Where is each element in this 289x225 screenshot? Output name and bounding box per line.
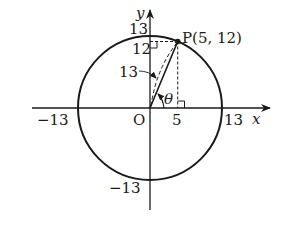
diagram-canvas: y x O 13 −13 13 −13 P(5, 12) 12 13 5 θ [0, 0, 289, 225]
x-coordinate-label: 5 [172, 111, 182, 129]
x-axis-label: x [252, 110, 261, 128]
point-p-label: P(5, 12) [182, 29, 242, 47]
radius-label-pointer [139, 71, 156, 78]
radius-length-label: 13 [119, 63, 138, 81]
tick-label-y-neg: −13 [109, 179, 141, 197]
right-angle-marker-bottom [178, 101, 185, 108]
tick-label-y-pos: 13 [129, 20, 148, 38]
y-coordinate-label: 12 [132, 40, 151, 58]
origin-label: O [133, 111, 145, 129]
theta-label: θ [164, 90, 173, 108]
tick-label-x-neg: −13 [37, 111, 69, 129]
point-p [175, 39, 181, 45]
tick-label-x-pos: 13 [224, 111, 243, 129]
